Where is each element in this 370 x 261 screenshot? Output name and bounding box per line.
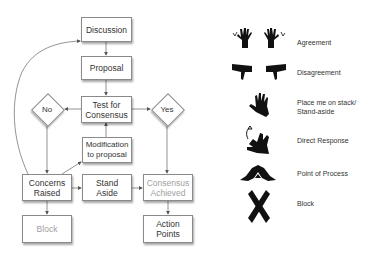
disagreement-thumbs-down-icon	[232, 63, 286, 81]
node-consensus-achieved: Consensus Achieved	[143, 174, 193, 201]
node-action-points: Action Points	[143, 215, 193, 243]
raised-hand-icon	[248, 92, 270, 118]
consensus-diagram: Discussion Proposal Test for Consensus N…	[0, 0, 370, 261]
legend-label-disagreement: Disagreement	[297, 68, 341, 77]
node-discussion: Discussion	[81, 17, 132, 42]
node-concerns-raised: Concerns Raised	[22, 174, 72, 201]
legend-label-agreement: Agreement	[297, 38, 331, 47]
decision-yes-label: Yes	[151, 105, 183, 114]
legend-label-block: Block	[297, 199, 314, 208]
decision-no-label: No	[31, 105, 63, 114]
agreement-hands-icon	[228, 28, 288, 50]
legend-label-place-me-on-stack: Place me on stack/ Stand-aside	[297, 98, 357, 116]
legend-label-point-of-process: Point of Process	[297, 169, 348, 178]
node-block: Block	[22, 215, 72, 243]
point-of-process-triangle-icon	[240, 164, 276, 182]
direct-response-hand-icon	[243, 125, 271, 155]
node-stand-aside: Stand Aside	[82, 174, 132, 201]
crossed-arms-icon	[246, 190, 272, 224]
node-proposal: Proposal	[81, 56, 132, 80]
node-modification-to-proposal: Modification to proposal	[82, 137, 132, 163]
legend-label-direct-response: Direct Response	[297, 136, 349, 145]
node-test-for-consensus: Test for Consensus	[81, 96, 132, 123]
